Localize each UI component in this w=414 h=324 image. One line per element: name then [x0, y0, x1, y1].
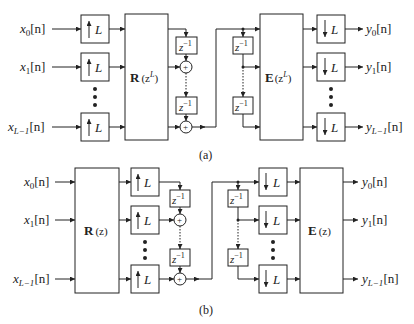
output-label: y0[n]	[364, 21, 391, 38]
caption-b: (b)	[199, 303, 213, 317]
input-label: x0[n]	[23, 174, 49, 191]
delay-label: z−1	[178, 99, 192, 113]
adder-symbol: +	[183, 122, 188, 132]
adder-symbol: +	[177, 274, 182, 284]
output-label: yL−1[n]	[360, 271, 399, 288]
input-label: x1[n]	[23, 212, 49, 229]
upsampler-label: L	[94, 60, 102, 75]
downsampler-label: L	[272, 175, 280, 190]
output-label: yL−1[n]	[364, 119, 403, 136]
upsampler-label: L	[143, 213, 151, 228]
delay-label: z−1	[171, 192, 185, 206]
adder-symbol: +	[183, 62, 188, 72]
delay-label: z−1	[234, 39, 248, 53]
downsampler-label: L	[272, 213, 280, 228]
upsampler-label: L	[94, 22, 102, 37]
delay-label: z−1	[171, 251, 185, 265]
upsampler-label: L	[94, 120, 102, 135]
downsampler-label: L	[330, 60, 338, 75]
downsampler-label: L	[330, 22, 338, 37]
upsampler-label: L	[143, 175, 151, 190]
upsampler-label: L	[143, 272, 151, 287]
delay-label: z−1	[229, 251, 243, 265]
r-matrix-label: R(z)	[84, 223, 108, 238]
output-label: y1[n]	[364, 59, 391, 76]
downsampler-label: L	[272, 272, 280, 287]
adder-symbol: +	[177, 215, 182, 225]
delay-label: z−1	[234, 99, 248, 113]
delay-label: z−1	[178, 39, 192, 53]
output-label: y0[n]	[360, 174, 387, 191]
ellipsis-dots	[93, 28, 333, 261]
input-label: x1[n]	[19, 59, 45, 76]
e-matrix-label: E(zL)	[265, 70, 292, 85]
r-matrix-label: R(zL)	[130, 70, 158, 85]
output-label: y1[n]	[360, 212, 387, 229]
input-label: xL−1[n]	[7, 119, 45, 136]
downsampler-label: L	[330, 120, 338, 135]
delay-label: z−1	[229, 192, 243, 206]
polyphase-filterbank-diagram: x0[n] x1[n] xL−1[n] L L L R(zL) z−1 z−1 …	[0, 0, 414, 324]
e-matrix-label: E(z)	[308, 223, 331, 238]
input-label: xL−1[n]	[12, 271, 50, 288]
input-label: x0[n]	[19, 21, 45, 38]
caption-a: (a)	[199, 148, 212, 162]
